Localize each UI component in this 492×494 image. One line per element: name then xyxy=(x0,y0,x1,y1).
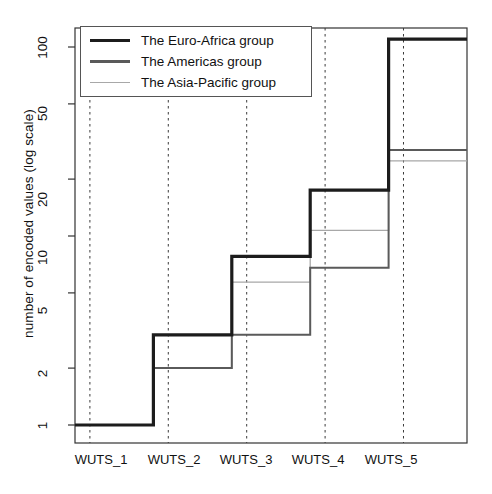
legend-line-swatch-americas xyxy=(90,60,130,62)
chart-legend: The Euro-Africa group The Americas group… xyxy=(80,26,312,97)
chart-figure: number of encoded values (log scale) 100… xyxy=(0,0,492,494)
x-tick-label-wuts-3: WUTS_3 xyxy=(218,452,274,467)
legend-item-euro-africa: The Euro-Africa group xyxy=(81,30,311,51)
series-step-line xyxy=(75,150,467,425)
series-step-line xyxy=(75,39,467,425)
x-tick-label-wuts-4: WUTS_4 xyxy=(290,452,346,467)
legend-line-swatch-asia-pacific xyxy=(90,82,130,83)
x-tick-label-wuts-2: WUTS_2 xyxy=(146,452,202,467)
legend-label-americas: The Americas group xyxy=(141,54,262,69)
legend-line-swatch-euro-africa xyxy=(90,39,130,42)
x-tick-label-wuts-5: WUTS_5 xyxy=(363,452,419,467)
legend-item-americas: The Americas group xyxy=(81,51,311,72)
legend-item-asia-pacific: The Asia-Pacific group xyxy=(81,72,311,93)
legend-swatch-bar xyxy=(90,39,130,42)
legend-swatch-bar xyxy=(90,82,130,83)
legend-label-euro-africa: The Euro-Africa group xyxy=(141,33,274,48)
series-step-line xyxy=(75,161,467,425)
x-tick-label-wuts-1: WUTS_1 xyxy=(73,452,129,467)
legend-label-asia-pacific: The Asia-Pacific group xyxy=(141,75,276,90)
legend-swatch-bar xyxy=(90,60,130,62)
